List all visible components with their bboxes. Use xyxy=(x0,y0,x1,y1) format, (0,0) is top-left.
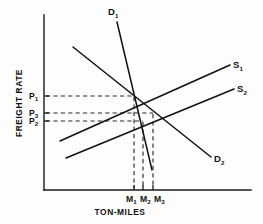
quantity-axis-labels: M1 M2 M3 xyxy=(126,194,165,205)
curve-label-d1: D1 xyxy=(108,6,119,19)
x-axis-title: TON-MILES xyxy=(95,207,146,217)
supply-curve-s1 xyxy=(60,65,230,141)
curve-label-s1: S1 xyxy=(233,59,244,72)
quantity-label-m1: M1 xyxy=(126,194,137,205)
curve-labels-group: D1 D2 S1 S2 xyxy=(108,6,248,166)
quantity-label-m2: M2 xyxy=(140,194,151,205)
quantity-guide-lines xyxy=(134,97,153,188)
curve-label-d2: D2 xyxy=(214,153,225,166)
chart-canvas: D1 D2 S1 S2 P1 P3 P2 M1 M2 M3 TON-MILES … xyxy=(0,0,263,224)
supply-curve-s2 xyxy=(66,89,234,158)
y-axis-ticks xyxy=(44,96,49,121)
curve-label-s2: S2 xyxy=(237,83,248,96)
price-label-p1: P1 xyxy=(29,91,39,102)
x-axis-ticks xyxy=(134,185,153,190)
price-axis-labels: P1 P3 P2 xyxy=(29,91,39,127)
demand-curve-d2 xyxy=(73,47,211,157)
y-axis-title: FREIGHT RATE xyxy=(14,69,24,137)
quantity-label-m3: M3 xyxy=(154,194,165,205)
supply-demand-chart: D1 D2 S1 S2 P1 P3 P2 M1 M2 M3 TON-MILES … xyxy=(0,0,263,224)
